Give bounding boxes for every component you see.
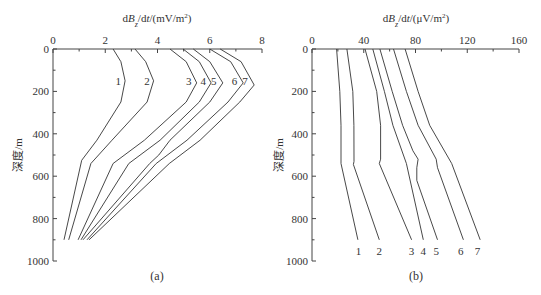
curve-1: [337, 49, 358, 240]
panel-b: 0408012016002004006008001000dBz/dt/(μV/m…: [272, 12, 528, 283]
panel-caption: (b): [409, 269, 423, 283]
x-tick-label: 6: [207, 34, 213, 46]
panel-a: 0246802004006008001000dBz/dt/(mV/m2)深度/m…: [11, 12, 265, 283]
y-tick-label: 600: [33, 170, 50, 182]
x-tick-label: 40: [358, 34, 370, 46]
curve-label-6: 6: [458, 245, 464, 257]
curve-label-6: 6: [232, 75, 238, 87]
curve-label-2: 2: [144, 75, 150, 87]
figure: 0246802004006008001000dBz/dt/(mV/m2)深度/m…: [0, 0, 541, 295]
curve-label-7: 7: [475, 245, 481, 257]
y-tick-label: 200: [33, 85, 50, 97]
curve-label-5: 5: [433, 245, 439, 257]
curve-2: [69, 49, 154, 240]
y-tick-label: 400: [33, 128, 50, 140]
curve-label-1: 1: [356, 245, 362, 257]
y-tick-label: 800: [33, 213, 50, 225]
y-tick-label: 800: [292, 213, 309, 225]
curve-7: [405, 49, 480, 240]
curve-3: [78, 49, 197, 240]
curve-label-3: 3: [186, 75, 192, 87]
curve-5: [380, 49, 438, 240]
y-tick-label: 400: [292, 128, 309, 140]
x-tick-label: 120: [459, 34, 476, 46]
y-tick-label: 0: [44, 43, 50, 55]
y-axis-label: 深度/m: [11, 138, 24, 172]
y-tick-label: 600: [292, 170, 309, 182]
x-tick-label: 80: [410, 34, 422, 46]
curve-label-4: 4: [200, 75, 206, 87]
x-tick-label: 2: [103, 34, 109, 46]
chart-canvas: 0246802004006008001000dBz/dt/(mV/m2)深度/m…: [0, 0, 541, 295]
x-axis-label: dBz/dt/(μV/m2): [383, 12, 450, 29]
y-tick-label: 1000: [27, 255, 50, 267]
curve-6: [394, 49, 464, 240]
x-tick-label: 4: [155, 34, 161, 46]
x-tick-label: 8: [259, 34, 265, 46]
y-tick-label: 0: [303, 43, 309, 55]
x-axis-label: dBz/dt/(mV/m2): [123, 12, 192, 29]
curve-label-5: 5: [211, 75, 217, 87]
curve-7: [89, 49, 254, 240]
curve-label-1: 1: [116, 75, 122, 87]
curve-label-4: 4: [421, 245, 427, 257]
curve-label-2: 2: [377, 245, 383, 257]
curve-label-7: 7: [242, 75, 248, 87]
x-tick-label: 160: [511, 34, 528, 46]
curve-label-3: 3: [409, 245, 415, 257]
y-axis-label: 深度/m: [272, 138, 285, 172]
x-tick-label: 0: [50, 34, 56, 46]
panel-caption: (a): [150, 269, 163, 283]
y-tick-label: 200: [292, 85, 309, 97]
y-tick-label: 1000: [286, 255, 309, 267]
x-tick-label: 0: [309, 34, 315, 46]
